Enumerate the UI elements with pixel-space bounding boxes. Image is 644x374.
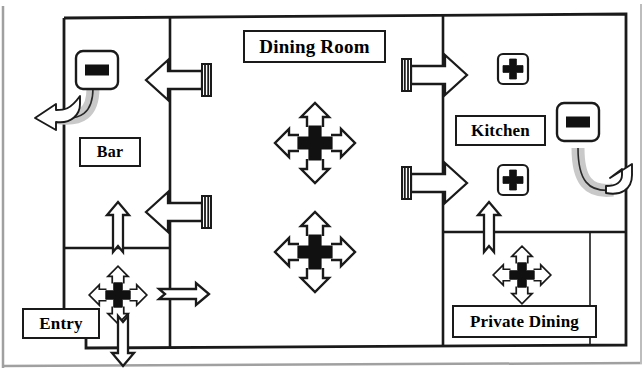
exit-sign-left-icon [76,51,118,89]
fire-extinguisher-marker-2 [498,165,528,195]
floor-plan-diagram: Dining Room Bar Kitchen Entry Private Di… [0,0,644,374]
room-label-entry: Entry [22,308,100,339]
egress-flow-entry-down-icon [112,316,134,366]
egress-flow-entry-right-icon [159,283,209,305]
evacuation-marker-dining-lower [275,212,355,292]
egress-flow-entry-up-icon [107,202,129,252]
exit-sign-right-icon [557,103,599,141]
room-label-kitchen: Kitchen [455,115,546,146]
egress-flow-private-up-icon [478,202,500,252]
evacuation-marker-private-dining [493,246,551,304]
fire-extinguisher-marker-1 [498,54,528,84]
room-label-dining-room: Dining Room [243,30,386,63]
door-bar-upper-icon [146,60,211,100]
exit-door-right-group [557,103,632,194]
exit-door-left-group [35,51,118,130]
door-kitchen-upper-icon [402,55,467,95]
door-bar-lower-icon [146,192,211,232]
room-label-bar: Bar [79,137,141,167]
room-label-private-dining: Private Dining [452,305,597,338]
evacuation-marker-dining-upper [275,103,355,183]
door-kitchen-lower-icon [402,163,467,203]
building-walls [64,14,626,348]
